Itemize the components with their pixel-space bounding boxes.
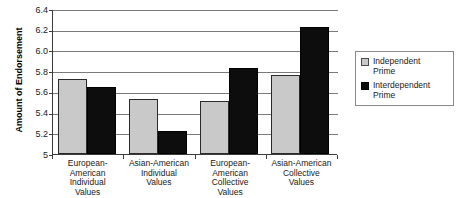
category-label-line: Values bbox=[52, 188, 123, 198]
legend-label-line2: Prime bbox=[373, 66, 395, 76]
y-axis-tick-label: 5.4 bbox=[24, 109, 48, 118]
x-axis-tick-mark bbox=[52, 155, 53, 159]
bar-interdependent bbox=[300, 27, 329, 154]
black-square-swatch bbox=[361, 82, 369, 90]
legend-label-line2: Prime bbox=[373, 90, 395, 100]
bar-independent bbox=[271, 75, 300, 154]
y-axis-tick-label: 5 bbox=[24, 151, 48, 160]
bar-chart-figure: Amount of Endorsement 6.46.26.05.85.65.4… bbox=[0, 0, 457, 198]
legend-item: Independent Prime bbox=[361, 57, 449, 76]
x-axis-category-label: Asian-AmericanCollectiveValues bbox=[266, 159, 337, 188]
bar-independent bbox=[200, 101, 229, 154]
bar-interdependent bbox=[229, 68, 258, 154]
plot-top-border bbox=[53, 10, 338, 11]
bar-independent bbox=[129, 99, 158, 154]
gridline bbox=[53, 51, 338, 52]
category-label-line: Values bbox=[195, 188, 266, 198]
chart-legend: Independent Prime Interdependent Prime bbox=[355, 51, 454, 106]
y-axis-tick-mark bbox=[49, 31, 53, 32]
x-axis-category-label: European-AmericanCollectiveValues bbox=[195, 159, 266, 197]
plot-area bbox=[52, 10, 337, 155]
gridline bbox=[53, 31, 338, 32]
y-axis-tick-mark bbox=[49, 51, 53, 52]
x-axis-category-label: Asian-AmericanIndividualValues bbox=[123, 159, 194, 188]
y-axis-tick-label: 5.8 bbox=[24, 68, 48, 77]
y-axis-tick-label: 6.0 bbox=[24, 47, 48, 56]
gridline bbox=[53, 72, 338, 73]
gray-square-swatch bbox=[361, 58, 369, 66]
x-axis-category-label: European-AmericanIndividualValues bbox=[52, 159, 123, 197]
y-axis-tick-label: 5.6 bbox=[24, 88, 48, 97]
category-label-line: Values bbox=[266, 178, 337, 188]
chart-title-cropped bbox=[0, 0, 457, 3]
legend-item-label: Interdependent Prime bbox=[373, 81, 430, 100]
y-axis-tick-label: 5.2 bbox=[24, 130, 48, 139]
bar-independent bbox=[58, 79, 87, 154]
y-axis-tick-label: 6.2 bbox=[24, 26, 48, 35]
y-axis-tick-mark bbox=[49, 72, 53, 73]
bar-interdependent bbox=[158, 131, 187, 154]
category-label-line: Values bbox=[123, 178, 194, 188]
y-axis-tick-mark bbox=[49, 114, 53, 115]
x-axis-tick-mark bbox=[123, 155, 124, 159]
x-axis-tick-mark bbox=[266, 155, 267, 159]
y-axis-tick-mark bbox=[49, 93, 53, 94]
y-axis-tick-labels: 6.46.26.05.85.65.45.25 bbox=[20, 0, 48, 165]
legend-item: Interdependent Prime bbox=[361, 81, 449, 100]
bar-interdependent bbox=[87, 87, 116, 154]
x-axis-tick-mark bbox=[337, 155, 338, 159]
legend-label-line1: Independent bbox=[373, 56, 420, 66]
y-axis-tick-mark bbox=[49, 134, 53, 135]
legend-item-label: Independent Prime bbox=[373, 57, 420, 76]
legend-label-line1: Interdependent bbox=[373, 80, 430, 90]
x-axis-tick-mark bbox=[195, 155, 196, 159]
y-axis-tick-label: 6.4 bbox=[24, 6, 48, 15]
